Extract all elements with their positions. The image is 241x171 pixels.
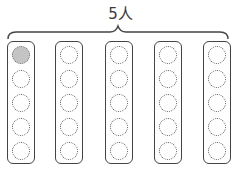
- empty-circle-icon: [208, 142, 226, 160]
- empty-circle-icon: [12, 118, 30, 136]
- empty-circle-icon: [208, 70, 226, 88]
- empty-circle-icon: [12, 70, 30, 88]
- empty-circle-icon: [159, 142, 177, 160]
- empty-circle-icon: [110, 142, 128, 160]
- person-column-3: [105, 41, 133, 164]
- person-column-5: [203, 41, 231, 164]
- empty-circle-icon: [12, 142, 30, 160]
- empty-circle-icon: [159, 46, 177, 64]
- person-column-1: [7, 41, 35, 164]
- filled-circle-icon: [12, 46, 30, 64]
- empty-circle-icon: [208, 94, 226, 112]
- empty-circle-icon: [208, 118, 226, 136]
- empty-circle-icon: [60, 142, 78, 160]
- empty-circle-icon: [60, 118, 78, 136]
- empty-circle-icon: [159, 118, 177, 136]
- empty-circle-icon: [110, 46, 128, 64]
- empty-circle-icon: [159, 70, 177, 88]
- empty-circle-icon: [60, 46, 78, 64]
- empty-circle-icon: [60, 94, 78, 112]
- empty-circle-icon: [110, 118, 128, 136]
- empty-circle-icon: [12, 94, 30, 112]
- empty-circle-icon: [208, 46, 226, 64]
- empty-circle-icon: [159, 94, 177, 112]
- person-column-2: [55, 41, 83, 164]
- empty-circle-icon: [110, 94, 128, 112]
- empty-circle-icon: [110, 70, 128, 88]
- person-column-4: [154, 41, 182, 164]
- empty-circle-icon: [60, 70, 78, 88]
